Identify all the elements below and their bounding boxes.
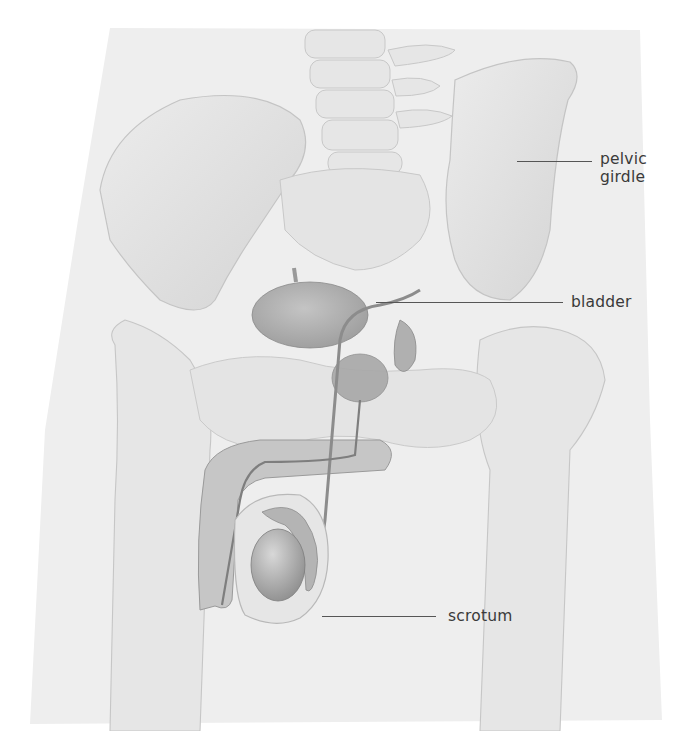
pelvic-girdle-label-line2: girdle bbox=[600, 168, 647, 186]
scrotum-leader-line bbox=[322, 616, 436, 617]
bladder-label: bladder bbox=[571, 293, 632, 311]
prostate bbox=[332, 354, 388, 402]
bladder-leader-line bbox=[376, 302, 563, 303]
scrotum-label: scrotum bbox=[448, 607, 513, 625]
bladder-organ bbox=[252, 282, 368, 348]
pelvic-girdle-leader-line bbox=[517, 161, 592, 162]
pelvic-girdle-label: pelvic girdle bbox=[600, 150, 647, 186]
testis bbox=[251, 529, 305, 601]
ureter bbox=[294, 268, 296, 282]
anatomy-illustration bbox=[0, 0, 690, 731]
pelvic-girdle-label-line1: pelvic bbox=[600, 150, 647, 168]
